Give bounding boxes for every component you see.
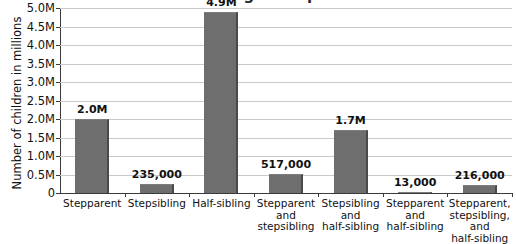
gridline	[60, 45, 512, 46]
y-tick-mark	[56, 156, 60, 157]
y-tick-label: 3.0M	[0, 75, 55, 89]
y-tick-label: 1.0M	[0, 149, 55, 163]
y-tick-mark	[56, 175, 60, 176]
bar-value-label: 13,000	[394, 176, 436, 189]
y-tick-label: 0.5M	[0, 168, 55, 182]
x-tick-mark	[189, 193, 190, 197]
gridline	[60, 27, 512, 28]
y-tick-mark	[56, 101, 60, 102]
gridline	[60, 138, 512, 139]
bar-value-label: 4.9M	[206, 0, 236, 9]
y-tick-mark	[56, 27, 60, 28]
x-tick-mark	[125, 193, 126, 197]
y-tick-mark	[56, 45, 60, 46]
y-tick-mark	[56, 119, 60, 120]
plot-area: 2.0M235,0004.9M517,0001.7M13,000216,000	[60, 8, 512, 193]
bar	[269, 174, 303, 193]
y-tick-mark	[56, 82, 60, 83]
bar	[75, 119, 109, 193]
chart-title: Children living in stepfamilies	[0, 0, 516, 4]
x-axis-line	[60, 193, 512, 194]
gridline	[60, 156, 512, 157]
bar-value-label: 1.7M	[335, 114, 365, 127]
y-tick-mark	[56, 8, 60, 9]
x-axis-category-line: half-sibling	[437, 233, 516, 244]
x-axis-category-label: Stepparent,stepsibling,andhalf-sibling	[437, 198, 516, 244]
y-tick-label: 0	[0, 186, 55, 200]
y-tick-label: 3.5M	[0, 57, 55, 71]
bar	[204, 12, 238, 193]
bar-value-label: 235,000	[132, 168, 182, 181]
x-axis-category-line: and	[437, 221, 516, 233]
y-tick-label: 4.5M	[0, 20, 55, 34]
y-tick-label: 5.0M	[0, 1, 55, 15]
x-tick-mark	[254, 193, 255, 197]
gridline	[60, 119, 512, 120]
y-tick-mark	[56, 64, 60, 65]
bar-value-label: 216,000	[455, 169, 505, 182]
x-tick-mark	[383, 193, 384, 197]
y-tick-label: 2.0M	[0, 112, 55, 126]
x-tick-mark	[318, 193, 319, 197]
gridline	[60, 8, 512, 9]
y-tick-mark	[56, 193, 60, 194]
y-tick-label: 2.5M	[0, 94, 55, 108]
bar	[463, 185, 497, 193]
gridline	[60, 101, 512, 102]
y-tick-mark	[56, 138, 60, 139]
bar	[140, 184, 174, 193]
y-tick-label: 1.5M	[0, 131, 55, 145]
x-axis-category-line: Stepparent,	[437, 198, 516, 210]
gridline	[60, 64, 512, 65]
bar	[334, 130, 368, 193]
gridline	[60, 82, 512, 83]
x-tick-mark	[512, 193, 513, 197]
bar-value-label: 2.0M	[77, 103, 107, 116]
chart-title-clipped: Children living in stepfamilies	[0, 0, 516, 6]
y-tick-label: 4.0M	[0, 38, 55, 52]
bar	[398, 192, 432, 194]
bar-value-label: 517,000	[261, 158, 311, 171]
